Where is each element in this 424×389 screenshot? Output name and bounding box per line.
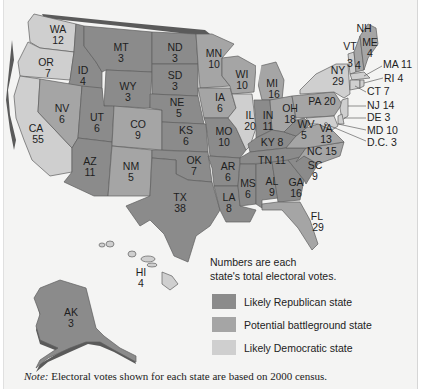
- svg-text:9: 9: [269, 186, 275, 198]
- svg-text:5: 5: [176, 107, 182, 119]
- state-fl[interactable]: [262, 202, 318, 250]
- swatch-democratic: [212, 340, 236, 355]
- svg-text:16: 16: [290, 187, 302, 199]
- svg-text:11: 11: [263, 120, 274, 132]
- legend-note-line1: Numbers are each: [210, 255, 336, 269]
- footnote-text: Electoral votes shown for each state are…: [48, 370, 327, 382]
- svg-text:7: 7: [45, 67, 51, 79]
- svg-text:10: 10: [218, 136, 230, 148]
- svg-text:KY 8: KY 8: [261, 136, 284, 148]
- svg-text:RI 4: RI 4: [384, 72, 403, 84]
- legend-label-republican: Likely Republican state: [244, 296, 352, 308]
- label-hi-votes: 4: [138, 277, 144, 289]
- svg-text:11: 11: [85, 166, 96, 178]
- footnote-prefix: Note:: [24, 370, 48, 382]
- svg-text:5: 5: [301, 129, 307, 141]
- svg-text:NJ 14: NJ 14: [367, 99, 395, 111]
- svg-text:6: 6: [225, 171, 231, 183]
- legend-item-battleground: Potential battleground state: [212, 313, 372, 336]
- svg-text:16: 16: [268, 88, 280, 100]
- svg-text:6: 6: [183, 135, 189, 147]
- state-ct[interactable]: [350, 80, 360, 90]
- svg-text:7: 7: [191, 165, 197, 177]
- svg-text:NH: NH: [356, 22, 371, 34]
- legend-label-battleground: Potential battleground state: [244, 319, 372, 331]
- svg-text:3: 3: [172, 52, 178, 64]
- svg-text:38: 38: [174, 202, 186, 214]
- svg-text:VT: VT: [343, 40, 357, 52]
- legend-note: Numbers are each state's total electoral…: [210, 255, 336, 283]
- svg-text:PA 20: PA 20: [308, 95, 335, 107]
- legend-item-republican: Likely Republican state: [212, 290, 372, 313]
- svg-text:CT 7: CT 7: [367, 85, 390, 97]
- svg-text:29: 29: [332, 75, 344, 87]
- svg-text:4: 4: [355, 59, 361, 71]
- svg-text:29: 29: [312, 221, 324, 233]
- svg-text:NC 15: NC 15: [307, 145, 337, 157]
- swatch-republican: [212, 294, 236, 309]
- svg-text:3: 3: [118, 52, 124, 64]
- svg-text:6: 6: [217, 102, 223, 114]
- svg-text:3: 3: [172, 80, 178, 92]
- label-ak-votes: 3: [68, 317, 74, 329]
- svg-text:18: 18: [284, 113, 296, 125]
- svg-text:3: 3: [125, 91, 131, 103]
- state-ri[interactable]: [360, 80, 364, 88]
- swatch-battleground: [212, 317, 236, 332]
- legend-item-democratic: Likely Democratic state: [212, 336, 372, 359]
- footnote: Note: Electoral votes shown for each sta…: [24, 370, 327, 382]
- svg-text:12: 12: [52, 34, 64, 46]
- svg-text:6: 6: [59, 113, 65, 125]
- legend-label-democratic: Likely Democratic state: [244, 342, 353, 354]
- legend: Likely Republican state Potential battle…: [212, 290, 372, 359]
- svg-text:4: 4: [367, 47, 373, 59]
- svg-text:6: 6: [245, 188, 251, 200]
- svg-text:5: 5: [128, 171, 134, 183]
- svg-text:MA 11: MA 11: [383, 58, 412, 70]
- svg-text:9: 9: [312, 170, 318, 182]
- svg-text:3: 3: [347, 57, 353, 69]
- svg-text:TN 11: TN 11: [258, 154, 286, 166]
- svg-text:55: 55: [32, 133, 44, 145]
- svg-text:13: 13: [320, 133, 332, 145]
- svg-text:9: 9: [135, 129, 141, 141]
- svg-text:10: 10: [236, 79, 248, 91]
- svg-text:DE 3: DE 3: [367, 111, 391, 123]
- svg-text:4: 4: [80, 75, 86, 87]
- svg-text:6: 6: [94, 122, 100, 134]
- svg-text:10: 10: [208, 58, 220, 70]
- svg-text:20: 20: [244, 120, 256, 132]
- svg-text:D.C. 3: D.C. 3: [367, 136, 397, 148]
- svg-text:8: 8: [226, 202, 232, 214]
- svg-text:MD 10: MD 10: [367, 124, 398, 136]
- legend-note-line2: state's total electoral votes.: [210, 269, 336, 283]
